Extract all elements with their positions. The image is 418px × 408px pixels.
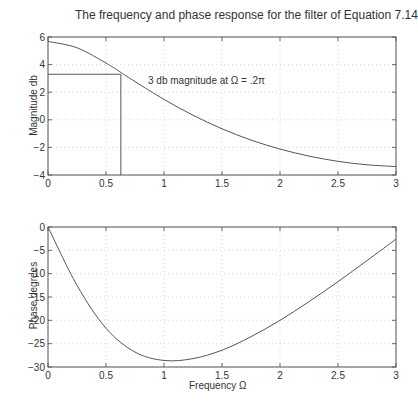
top-y-axis-label: Magnitude db	[28, 66, 39, 146]
x-tick-label: 0	[45, 370, 51, 381]
annotation-3db: 3 db magnitude at Ω = .2π	[148, 75, 265, 86]
x-tick-label: 2	[277, 178, 283, 189]
magnitude-curve	[48, 41, 396, 166]
x-tick-label: 2	[277, 370, 283, 381]
phase-plot: 00.511.522.53−30−25−20−15−10−50	[28, 222, 399, 382]
y-tick-label: 0	[39, 114, 45, 125]
y-tick-label: 2	[39, 87, 45, 98]
x-tick-label: 0.5	[99, 370, 113, 381]
x-tick-label: 1	[161, 370, 167, 381]
y-tick-label: −4	[34, 170, 46, 181]
chart-title: The frequency and phase response for the…	[75, 8, 418, 22]
x-tick-label: 2.5	[331, 370, 345, 381]
x-tick-label: 3	[393, 370, 399, 381]
x-tick-label: 0	[45, 178, 51, 189]
x-tick-label: 3	[393, 178, 399, 189]
x-tick-label: 1	[161, 178, 167, 189]
x-tick-label: 1.5	[215, 178, 229, 189]
x-tick-label: 0.5	[99, 178, 113, 189]
x-tick-label: 2.5	[331, 178, 345, 189]
y-tick-label: −30	[28, 362, 45, 373]
y-tick-label: 0	[39, 222, 45, 233]
bottom-y-axis-label: Phase degrees	[28, 254, 39, 338]
bottom-x-axis-label: Frequency Ω	[189, 380, 247, 391]
magnitude-plot: 00.511.522.53−4−20246	[34, 32, 400, 190]
y-tick-label: 4	[39, 59, 45, 70]
y-tick-label: −25	[28, 338, 45, 349]
y-tick-label: 6	[39, 32, 45, 43]
